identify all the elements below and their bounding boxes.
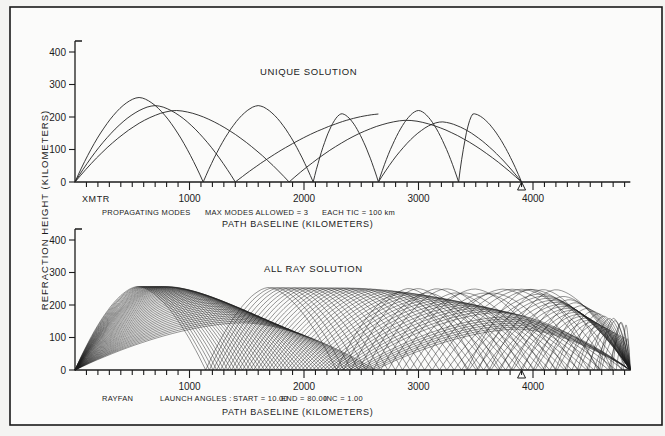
y-tick-label: 0 — [60, 177, 66, 188]
x-tick-label: 4000 — [522, 381, 545, 392]
top-note-tic-size: EACH TIC = 100 km — [322, 208, 395, 217]
y-tick-label: 300 — [49, 267, 66, 278]
x-tick-label: 1000 — [178, 193, 201, 204]
top-note-max-modes: MAX MODES ALLOWED = 3 — [205, 208, 308, 217]
bottom-note-end: END = 80.00 — [281, 394, 327, 403]
top-x-axis-label: PATH BASELINE (KILOMETERS) — [222, 219, 373, 229]
bottom-note-launch-angles: LAUNCH ANGLES : — [160, 394, 232, 403]
y-tick-label: 400 — [49, 235, 66, 246]
bottom-note-inc: INC = 1.00 — [324, 394, 363, 403]
top-panel-title: UNIQUE SOLUTION — [260, 66, 357, 77]
transmitter-label: XMTR — [82, 194, 110, 204]
bottom-x-axis-label: PATH BASELINE (KILOMETERS) — [222, 407, 373, 417]
y-tick-label: 100 — [49, 144, 66, 155]
x-tick-label: 3000 — [407, 381, 430, 392]
x-tick-label: 2000 — [293, 381, 316, 392]
x-tick-label: 3000 — [407, 193, 430, 204]
x-tick-label: 2000 — [293, 193, 316, 204]
bottom-note-rayfan: RAYFAN — [102, 394, 133, 403]
y-tick-label: 100 — [49, 332, 66, 343]
bottom-panel-title: ALL RAY SOLUTION — [264, 263, 363, 274]
ray-trace-figure: REFRACTION HEIGHT (KILOMETERS) UNIQUE SO… — [0, 0, 665, 436]
y-tick-label: 200 — [49, 300, 66, 311]
y-tick-label: 200 — [49, 112, 66, 123]
bottom-note-start: START = 10.00 — [233, 394, 288, 403]
x-tick-label: 1000 — [178, 381, 201, 392]
x-tick-label: 4000 — [522, 193, 545, 204]
y-tick-label: 400 — [49, 47, 66, 58]
y-tick-label: 0 — [60, 365, 66, 376]
y-axis-label: REFRACTION HEIGHT (KILOMETERS) — [39, 110, 50, 310]
top-note-propagating-modes: PROPAGATING MODES — [102, 208, 191, 217]
y-tick-label: 300 — [49, 79, 66, 90]
